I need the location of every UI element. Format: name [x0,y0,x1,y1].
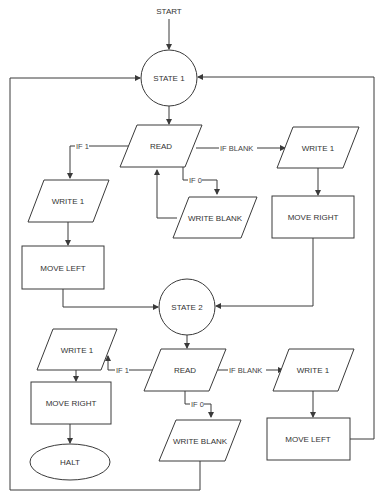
node-write1-right-2-label: WRITE 1 [297,366,330,375]
node-write-blank-2[interactable]: WRITE BLANK [159,420,241,461]
node-halt-label: HALT [60,458,80,467]
node-write1-left-label: WRITE 1 [52,197,85,206]
edge-moveleft-state2 [63,289,158,307]
node-move-right-2[interactable]: MOVE RIGHT [31,382,111,424]
node-write1-left-2[interactable]: WRITE 1 [37,329,117,370]
node-move-left-1[interactable]: MOVE LEFT [22,246,104,289]
edge-writeblank-read1 [157,170,177,218]
node-read2[interactable]: READ [144,349,226,391]
node-write1-left-2-label: WRITE 1 [61,346,94,355]
node-read1-label: READ [150,142,172,151]
edge-label-read2-if0: IF 0 [191,400,204,409]
edge-label-read2-if1: IF 1 [116,366,129,375]
edge-read2-if1 [108,356,153,370]
edge-moveright-state2 [216,238,313,306]
node-write1-right-label: WRITE 1 [302,144,335,153]
flowchart-canvas: IF 1 IF 0 IF BLANK IF 1 IF 0 IF BLANK ST… [0,0,384,501]
start-label: START [156,7,182,16]
node-move-left-2-label: MOVE LEFT [285,435,330,444]
node-write1-right-2[interactable]: WRITE 1 [273,349,354,391]
node-move-right-1-label: MOVE RIGHT [288,213,339,222]
edge-label-read2-ifblank: IF BLANK [229,366,262,375]
node-write-blank-2-label: WRITE BLANK [173,437,228,446]
node-state2-label: STATE 2 [171,303,203,312]
edge-label-read1-if0: IF 0 [189,176,202,185]
node-halt[interactable]: HALT [30,444,110,480]
edge-label-read1-if1: IF 1 [76,142,89,151]
node-state1-label: STATE 1 [153,74,185,83]
node-move-left-1-label: MOVE LEFT [40,264,85,273]
node-state2[interactable]: STATE 2 [159,279,215,335]
edge-label-read1-ifblank: IF BLANK [220,144,253,153]
node-move-right-2-label: MOVE RIGHT [46,399,97,408]
node-read2-label: READ [174,366,196,375]
node-write-blank-1-label: WRITE BLANK [188,214,243,223]
node-write-blank-1[interactable]: WRITE BLANK [173,197,257,238]
node-write1-left[interactable]: WRITE 1 [28,180,109,222]
node-move-left-2[interactable]: MOVE LEFT [267,418,350,460]
node-move-right-1[interactable]: MOVE RIGHT [272,196,354,238]
node-state1[interactable]: STATE 1 [141,50,197,106]
node-write1-right[interactable]: WRITE 1 [277,127,359,168]
node-read1[interactable]: READ [120,125,202,167]
